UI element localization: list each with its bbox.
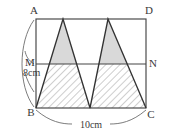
geometry-figure: A D M N B C 8cm 10cm [0, 0, 169, 136]
vertex-label-c: C [147, 108, 154, 120]
vertex-label-d: D [145, 4, 153, 16]
width-brace-right [110, 110, 146, 124]
vertex-label-n: N [149, 57, 157, 69]
vertex-label-b: B [27, 106, 34, 118]
height-dimension-label: 8cm [23, 67, 40, 78]
geometry-svg: A D M N B C 8cm 10cm [0, 0, 169, 136]
vertex-label-a: A [30, 4, 38, 16]
width-dimension-label: 10cm [80, 119, 102, 130]
width-brace-left [36, 110, 72, 124]
